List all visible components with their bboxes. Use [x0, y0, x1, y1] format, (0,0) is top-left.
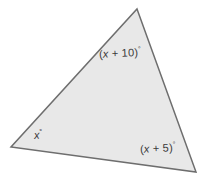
angle-label-bottom-left: x°: [34, 129, 43, 141]
angle-label-top-constant: 10: [121, 46, 134, 59]
angle-label-bottom-right-operator: +: [149, 142, 163, 155]
degree-symbol-icon: °: [173, 140, 176, 147]
triangle-shape: [0, 0, 204, 183]
angle-label-top: (x + 10)°: [99, 47, 142, 60]
degree-symbol-icon: °: [138, 45, 141, 52]
angle-label-bottom-right: (x + 5)°: [140, 142, 176, 155]
degree-symbol-icon: °: [39, 128, 42, 135]
triangle-angle-diagram: (x + 10)° (x + 5)° x°: [0, 0, 204, 183]
angle-label-top-operator: +: [108, 47, 122, 60]
